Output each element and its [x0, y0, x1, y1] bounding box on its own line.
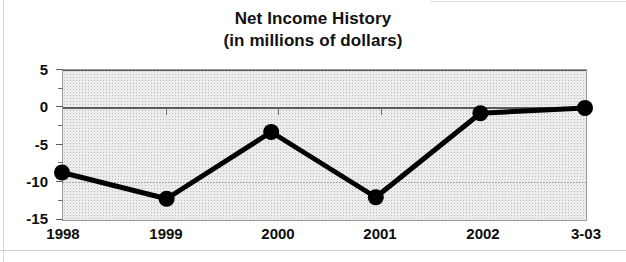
chart-subtitle: (in millions of dollars): [0, 30, 626, 51]
y-axis-label-minus-5: -5: [4, 137, 48, 152]
ytick-minus-5: [56, 144, 63, 145]
ytick-minor-neg2_5: [58, 125, 63, 126]
chart-page: Net Income History (in millions of dolla…: [0, 0, 626, 262]
page-border-bottom: [0, 250, 626, 251]
x-axis-label-1998: 1998: [23, 226, 103, 242]
ytick-minor-neg7_5: [58, 162, 63, 163]
ytick-0: [56, 106, 63, 107]
y-axis-label-5: 5: [4, 62, 48, 77]
page-border-top: [430, 1, 626, 2]
y-axis-label-minus-15: -15: [4, 211, 48, 226]
x-axis-label-1999: 1999: [126, 226, 206, 242]
ytick-minor-2_5: [58, 88, 63, 89]
y-axis-label-0: 0: [4, 99, 48, 114]
chart-title: Net Income History: [0, 8, 626, 29]
ytick-minor-neg12_5: [58, 200, 63, 201]
xtick-1999: [166, 108, 167, 115]
x-axis-label-3-03: 3-03: [546, 226, 626, 242]
gridline-minus-10: [63, 182, 586, 183]
ytick-minus-15: [56, 219, 63, 220]
y-axis-label-minus-10: -10: [4, 174, 48, 189]
ytick-5: [56, 69, 63, 70]
gridline-top: [63, 70, 586, 71]
plot-area: [62, 69, 587, 221]
x-axis-label-2000: 2000: [238, 226, 318, 242]
ytick-minus-10: [56, 181, 63, 182]
xtick-2000: [278, 108, 279, 115]
x-axis-label-2001: 2001: [340, 226, 420, 242]
zeroline-value-0: [63, 108, 586, 109]
x-axis-label-2002: 2002: [443, 226, 523, 242]
xtick-2001: [381, 108, 382, 115]
